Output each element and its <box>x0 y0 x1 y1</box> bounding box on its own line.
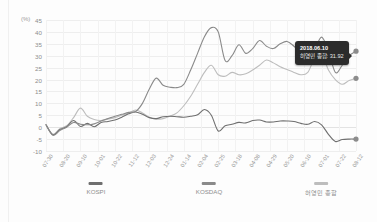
legend-label-kospi: KOSPI <box>87 188 106 195</box>
tooltip-caret-icon <box>349 53 352 59</box>
x-axis-tick-label: 07-30 <box>41 153 54 168</box>
y-axis-tick-label: 5 <box>24 112 42 119</box>
x-axis-tick-label: 08-12 <box>351 153 364 168</box>
data-point-tooltip: 2018.06.10 허영민 종합: 31.92 <box>295 41 349 65</box>
x-axis-tick-label: 02-25 <box>213 153 226 168</box>
grid-line-horizontal <box>46 151 356 152</box>
x-axis-tick-label: 01-14 <box>179 153 192 168</box>
x-axis-tick-label: 03-18 <box>230 153 243 168</box>
x-axis-tick-label: 12-03 <box>144 153 157 168</box>
x-axis-tick-label: 10-22 <box>110 153 123 168</box>
chart-canvas: (%) 454035302520151050-5-10 07-3008-2009… <box>0 0 377 222</box>
legend-item-kosdaq[interactable]: KOSDAQ <box>196 182 222 195</box>
y-axis-tick-label: 35 <box>24 40 42 47</box>
x-axis-tick-label: 04-08 <box>248 153 261 168</box>
legend-item-kospi[interactable]: KOSPI <box>87 182 106 195</box>
x-axis-tick-label: 10-01 <box>93 153 106 168</box>
line-series-1 <box>46 110 356 142</box>
legend-swatch-composite <box>314 182 328 185</box>
x-axis-tick-label: 12-24 <box>162 153 175 168</box>
chart-legend: KOSPI KOSDAQ 허영민 종합 <box>0 182 377 212</box>
y-axis-tick-label: -5 <box>24 136 42 143</box>
x-axis-tick-label: 06-10 <box>299 153 312 168</box>
x-axis-tick-label: 08-20 <box>58 153 71 168</box>
y-axis-tick-label: -10 <box>24 148 42 155</box>
y-axis-tick-label: 20 <box>24 76 42 83</box>
y-axis-tick-label: 15 <box>24 88 42 95</box>
series-endpoint-marker <box>353 49 358 54</box>
tooltip-date: 2018.06.10 <box>300 44 344 52</box>
x-axis-tick-label: 07-22 <box>334 153 347 168</box>
x-axis-tick-label: 02-04 <box>196 153 209 168</box>
series-endpoint-marker <box>353 76 358 81</box>
x-axis-tick-label: 11-12 <box>127 153 140 168</box>
legend-label-kosdaq: KOSDAQ <box>196 188 222 195</box>
y-axis-tick-label: 25 <box>24 64 42 71</box>
legend-swatch-kospi <box>89 182 103 185</box>
plot-area <box>46 20 356 151</box>
tooltip-value: 허영민 종합: 31.92 <box>300 52 344 60</box>
grid-line-vertical <box>356 20 357 151</box>
series-endpoint-marker <box>353 136 358 141</box>
legend-label-composite: 허영민 종합 <box>305 188 337 197</box>
x-axis-tick-label: 07-01 <box>317 153 330 168</box>
x-axis-tick-label: 09-10 <box>75 153 88 168</box>
y-axis-tick-label: 10 <box>24 100 42 107</box>
legend-item-composite[interactable]: 허영민 종합 <box>305 182 337 197</box>
legend-swatch-kosdaq <box>202 182 216 185</box>
series-lines <box>46 20 356 151</box>
line-series-2 <box>46 53 356 135</box>
x-axis-tick-label: 05-20 <box>282 153 295 168</box>
y-axis-tick-label: 30 <box>24 52 42 59</box>
y-axis-tick-label: 0 <box>24 124 42 131</box>
y-axis-tick-label: 45 <box>24 17 42 24</box>
y-axis-tick-group: 454035302520151050-5-10 <box>22 20 42 151</box>
y-axis-tick-label: 40 <box>24 28 42 35</box>
x-axis-tick-label: 04-29 <box>265 153 278 168</box>
